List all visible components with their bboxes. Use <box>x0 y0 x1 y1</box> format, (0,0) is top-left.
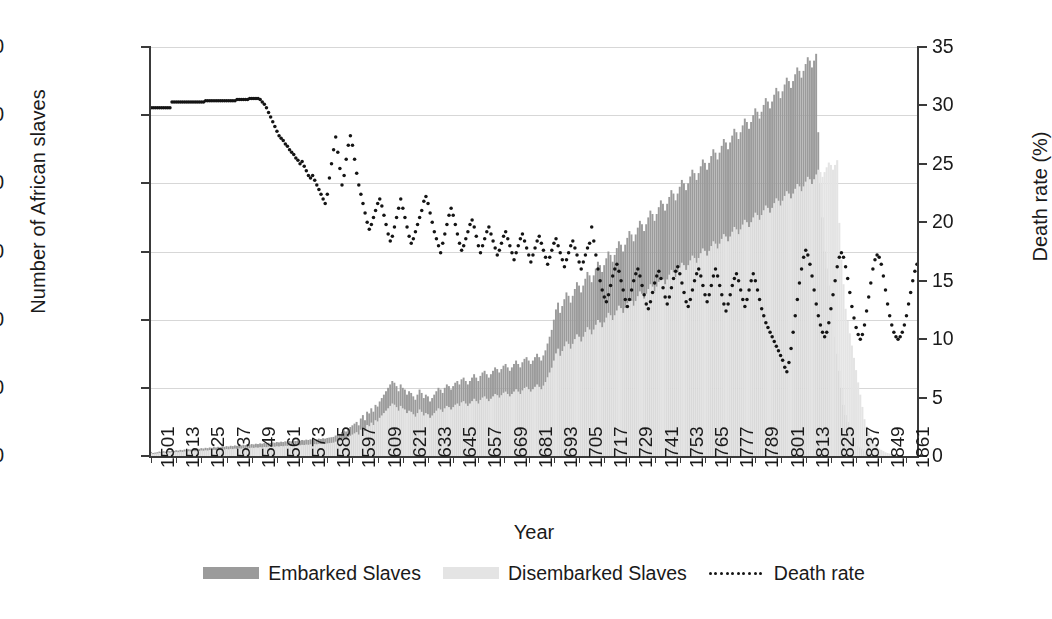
y-tick-right <box>919 46 927 48</box>
x-tick-label: 1717 <box>611 427 630 468</box>
legend-label: Embarked Slaves <box>268 562 421 585</box>
x-tick-label: 1585 <box>334 427 353 468</box>
y-axis-left-spine <box>149 46 151 457</box>
y-tick-left <box>141 182 149 184</box>
y-tick-left <box>141 251 149 253</box>
legend-item[interactable]: Death rate <box>709 562 865 585</box>
y-tick-label-right: 5 <box>932 388 943 408</box>
y-tick-label-left: 20,000 <box>0 378 4 398</box>
y-tick-label-right: 15 <box>932 271 954 291</box>
legend-item[interactable]: Embarked Slaves <box>203 562 421 585</box>
x-tick <box>378 458 379 463</box>
legend-label: Death rate <box>774 562 865 585</box>
y-tick-right <box>919 280 927 282</box>
x-tick-label: 1789 <box>762 427 781 468</box>
y-tick-label-left: 40,000 <box>0 310 4 330</box>
y-axis-right-spine <box>917 46 919 457</box>
legend-swatch-icon <box>443 567 499 579</box>
legend-swatch-icon <box>203 567 259 579</box>
x-tick-label: 1573 <box>309 427 328 468</box>
x-tick <box>302 458 303 463</box>
x-tick <box>831 458 832 463</box>
x-tick-label: 1861 <box>913 427 932 468</box>
x-tick-label: 1609 <box>385 427 404 468</box>
y-tick-left <box>141 387 149 389</box>
x-tick <box>453 458 454 463</box>
x-tick <box>705 458 706 463</box>
x-tick <box>428 458 429 463</box>
x-tick <box>680 458 681 463</box>
x-tick <box>806 458 807 463</box>
x-tick-label: 1597 <box>359 427 378 468</box>
y-tick-right <box>919 338 927 340</box>
x-tick <box>176 458 177 463</box>
x-tick <box>554 458 555 463</box>
x-tick-label: 1561 <box>284 427 303 468</box>
x-tick-label: 1825 <box>838 427 857 468</box>
x-tick-label: 1813 <box>813 427 832 468</box>
x-tick-label: 1705 <box>586 427 605 468</box>
plot-area <box>150 47 918 456</box>
x-tick <box>201 458 202 463</box>
y-tick-label-right: 30 <box>932 95 954 115</box>
x-tick <box>881 458 882 463</box>
x-tick <box>579 458 580 463</box>
y-tick-label-right: 20 <box>932 212 954 232</box>
y-tick-right <box>919 397 927 399</box>
y-tick-right <box>919 163 927 165</box>
y-tick-label-left: 60,000 <box>0 242 4 262</box>
y-tick-label-left: 0 <box>0 446 4 466</box>
x-tick <box>151 458 152 463</box>
legend-item[interactable]: Disembarked Slaves <box>443 562 687 585</box>
x-tick-label: 1777 <box>737 427 756 468</box>
y-axis-left-title: Number of African slaves <box>27 22 50 382</box>
x-tick-label: 1537 <box>234 427 253 468</box>
x-tick-label: 1657 <box>485 427 504 468</box>
x-tick-label: 1525 <box>208 427 227 468</box>
chart-legend: Embarked SlavesDisembarked SlavesDeath r… <box>150 558 918 588</box>
y-tick-right <box>919 221 927 223</box>
x-tick <box>277 458 278 463</box>
x-axis-title: Year <box>150 521 918 544</box>
chart-canvas <box>150 47 918 456</box>
legend-label: Disembarked Slaves <box>508 562 687 585</box>
x-tick-label: 1729 <box>636 427 655 468</box>
x-tick <box>629 458 630 463</box>
x-tick-label: 1621 <box>410 427 429 468</box>
y-tick-label-right: 35 <box>932 37 954 57</box>
y-tick-label-right: 25 <box>932 154 954 174</box>
x-tick <box>504 458 505 463</box>
x-tick-label: 1549 <box>259 427 278 468</box>
x-tick <box>604 458 605 463</box>
x-tick-label: 1681 <box>536 427 555 468</box>
y-tick-label-right: 10 <box>932 329 954 349</box>
x-tick-label: 1633 <box>435 427 454 468</box>
x-tick <box>327 458 328 463</box>
x-tick-label: 1753 <box>687 427 706 468</box>
y-axis-right-title: Death rate (%) <box>1029 37 1052 357</box>
x-tick-label: 1801 <box>788 427 807 468</box>
x-tick <box>730 458 731 463</box>
x-tick-label: 1645 <box>460 427 479 468</box>
x-tick <box>403 458 404 463</box>
x-tick <box>352 458 353 463</box>
y-tick-label-left: 120,000 <box>0 37 4 57</box>
x-tick <box>655 458 656 463</box>
x-tick <box>529 458 530 463</box>
y-tick-left <box>141 319 149 321</box>
y-tick-right <box>919 104 927 106</box>
x-tick <box>252 458 253 463</box>
legend-dotted-line-icon <box>709 567 765 579</box>
x-tick <box>781 458 782 463</box>
x-tick <box>856 458 857 463</box>
y-tick-left <box>141 455 149 457</box>
x-tick-label: 1501 <box>158 427 177 468</box>
x-tick-label: 1693 <box>561 427 580 468</box>
x-tick <box>755 458 756 463</box>
y-tick-left <box>141 114 149 116</box>
x-tick-label: 1849 <box>888 427 907 468</box>
x-tick-label: 1837 <box>863 427 882 468</box>
x-tick-label: 1765 <box>712 427 731 468</box>
x-tick-label: 1741 <box>662 427 681 468</box>
